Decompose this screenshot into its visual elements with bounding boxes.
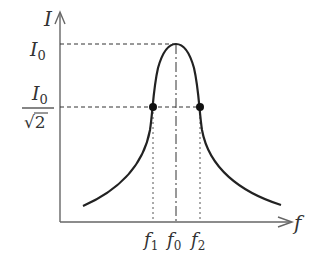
- half-power-point-left: [149, 103, 157, 111]
- half-power-point-right: [196, 103, 204, 111]
- resonance-diagram: I f I0 I0 √2 f1 f0 f2: [0, 0, 322, 261]
- half-power-label: I0 √2: [22, 82, 54, 132]
- resonance-curve: [83, 44, 281, 206]
- frequency-labels: f1 f0 f2: [142, 229, 205, 253]
- svg-text:I0: I0: [31, 82, 48, 107]
- svg-text:√2: √2: [24, 112, 46, 132]
- peak-label: I0: [29, 38, 46, 63]
- y-axis-label: I: [43, 7, 53, 31]
- diagram-svg: I f I0 I0 √2 f1 f0 f2: [0, 0, 322, 261]
- f0-label: f0: [165, 229, 181, 253]
- f2-label: f2: [189, 229, 205, 253]
- f1-label: f1: [142, 229, 158, 253]
- x-axis-label: f: [292, 211, 305, 235]
